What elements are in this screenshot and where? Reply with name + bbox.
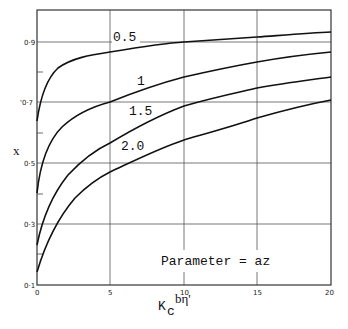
x-axis-label-sup: bη' bbox=[175, 291, 191, 306]
xtick-5: 5 bbox=[108, 289, 112, 297]
chart: 0.5 1 1.5 2.0 Parameter = az 0·9 '0·7 0·… bbox=[0, 0, 348, 329]
curve-label-1.5: 1.5 bbox=[129, 104, 152, 119]
gridlines bbox=[37, 10, 331, 285]
xtick-0: 0 bbox=[35, 289, 39, 297]
x-axis-label-sub: c bbox=[167, 304, 175, 319]
xtick-20: 20 bbox=[325, 289, 334, 297]
curve-label-0.5: 0.5 bbox=[113, 30, 136, 45]
ytick-0.1: 0·1 bbox=[24, 282, 35, 290]
ytick-0.7: '0·7 bbox=[20, 99, 33, 107]
y-axis-label: x bbox=[13, 143, 20, 158]
curve-label-1: 1 bbox=[137, 74, 145, 89]
xtick-15: 15 bbox=[253, 289, 262, 297]
ytick-0.3: 0·3 bbox=[24, 221, 35, 229]
ytick-0.5: 0·5 bbox=[24, 160, 35, 168]
curve-label-2.0: 2.0 bbox=[121, 139, 144, 154]
x-axis-label-main: K bbox=[158, 299, 166, 314]
parameter-annotation: Parameter = az bbox=[161, 254, 270, 269]
ytick-0.9: 0·9 bbox=[24, 39, 35, 47]
